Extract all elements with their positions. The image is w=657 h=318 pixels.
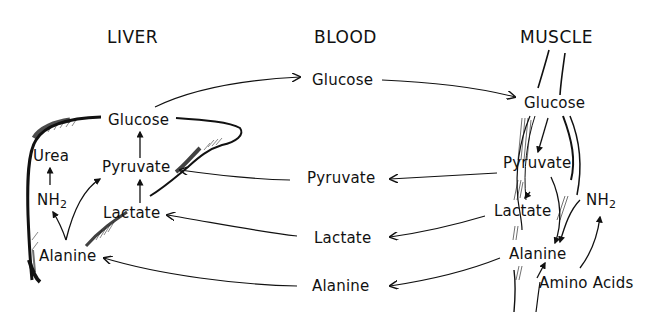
liver-glucose-label: Glucose bbox=[108, 113, 169, 128]
liver-alanine-label: Alanine bbox=[39, 249, 96, 264]
column-header-muscle: MUSCLE bbox=[520, 29, 593, 46]
arrow-liver-glucose-to-blood-glucose bbox=[155, 77, 300, 107]
arrow-muscle-nh2-to-alanine bbox=[560, 200, 580, 242]
arrow-muscle-pyruvate-to-alanine bbox=[551, 177, 560, 243]
arrow-blood-pyruvate-to-liver-pyruvate bbox=[180, 170, 290, 180]
arrow-muscle-alanine-to-blood-alanine bbox=[390, 258, 500, 286]
muscle-nh2-text: NH bbox=[586, 191, 609, 209]
muscle-pyruvate-label: Pyruvate bbox=[503, 156, 571, 171]
liver-nh2-label: NH2 bbox=[37, 193, 67, 210]
blood-pyruvate-label: Pyruvate bbox=[307, 171, 375, 186]
liver-urea-label: Urea bbox=[33, 149, 69, 164]
arrow-muscle-glucose-to-pyruvate bbox=[538, 118, 548, 152]
muscle-amino-acids-label: Amino Acids bbox=[539, 276, 633, 291]
column-header-blood: BLOOD bbox=[314, 29, 377, 46]
arrow-blood-alanine-to-liver-alanine bbox=[104, 258, 297, 286]
muscle-lactate-label: Lactate bbox=[494, 204, 551, 219]
blood-alanine-label: Alanine bbox=[312, 279, 369, 294]
muscle-nh2-subscript: 2 bbox=[609, 198, 616, 211]
blood-glucose-label: Glucose bbox=[312, 73, 373, 88]
muscle-nh2-label: NH2 bbox=[586, 193, 616, 210]
arrow-alanine-to-pyruvate bbox=[66, 179, 100, 240]
muscle-glucose-label: Glucose bbox=[524, 96, 585, 111]
liver-lactate-label: Lactate bbox=[103, 206, 160, 221]
arrow-alanine-to-nh2 bbox=[53, 212, 66, 240]
liver-pyruvate-label: Pyruvate bbox=[102, 160, 170, 175]
arrow-muscle-lactate-to-blood-lactate bbox=[390, 216, 485, 237]
muscle-alanine-label: Alanine bbox=[509, 247, 566, 262]
glucose-alanine-cycle-diagram: LIVER BLOOD MUSCLE Glucose Pyruvate Lact… bbox=[0, 0, 657, 318]
blood-lactate-label: Lactate bbox=[314, 231, 371, 246]
arrow-amino-acids-to-nh2 bbox=[580, 217, 600, 268]
liver-hatching bbox=[32, 120, 222, 250]
muscle-outline bbox=[514, 50, 580, 312]
arrow-blood-lactate-to-liver-lactate bbox=[167, 215, 297, 236]
liver-nh2-text: NH bbox=[37, 191, 60, 209]
arrow-blood-glucose-to-muscle-glucose bbox=[382, 80, 515, 97]
column-header-liver: LIVER bbox=[107, 29, 158, 46]
arrow-muscle-pyruvate-to-blood-pyruvate bbox=[390, 173, 497, 179]
liver-nh2-subscript: 2 bbox=[60, 198, 67, 211]
